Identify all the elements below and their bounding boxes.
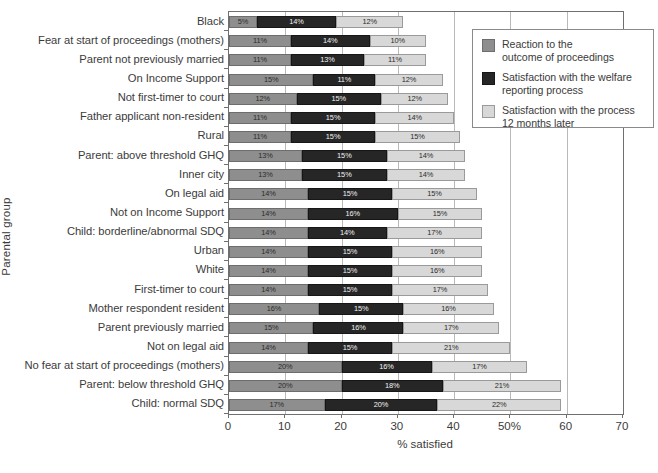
legend-item: Reaction to the outcome of proceedings: [482, 38, 614, 63]
bar-segment-label: 12%: [230, 94, 296, 104]
bar-segment: 20%: [325, 399, 438, 411]
bar-segment-label: 14%: [309, 228, 386, 238]
bar-segment: 12%: [375, 74, 443, 86]
category-label: Father applicant non-resident: [18, 110, 224, 122]
bar-segment-label: 14%: [388, 151, 465, 161]
category-label: Child: borderline/abnormal SDQ: [18, 225, 224, 237]
category-label: On Income Support: [18, 72, 224, 84]
bar-segment: 14%: [229, 342, 308, 354]
bar-segment: 12%: [336, 16, 404, 28]
bar-segment: 22%: [437, 399, 561, 411]
bar-segment-label: 16%: [343, 362, 431, 372]
bar-segment: 16%: [229, 303, 319, 315]
x-axis-tick-row: 01020304050%6070: [228, 414, 622, 434]
bar-segment: 14%: [229, 265, 308, 277]
bar-segment-label: 17%: [433, 362, 527, 372]
bar-segment-label: 11%: [365, 55, 425, 65]
bar-segment: 21%: [392, 342, 510, 354]
bar-segment: 12%: [229, 93, 297, 105]
category-label: Parent not previously married: [18, 53, 224, 65]
bar-segment-label: 20%: [230, 381, 341, 391]
bar-segment-label: 15%: [309, 189, 391, 199]
category-label: Inner city: [18, 168, 224, 180]
x-axis-tick-label: 50%: [498, 420, 521, 432]
bar-segment: 21%: [443, 380, 561, 392]
bar-segment: 14%: [387, 150, 466, 162]
category-label: Black: [18, 15, 224, 27]
bar-row: 14%15%21%: [229, 342, 510, 354]
bar-segment-label: 15%: [303, 151, 385, 161]
bar-segment: 11%: [229, 54, 291, 66]
bar-segment: 16%: [392, 246, 482, 258]
bar-segment-label: 18%: [343, 381, 442, 391]
bar-segment: 14%: [308, 227, 387, 239]
x-axis-tick-label: 70: [616, 420, 629, 432]
bar-segment: 15%: [291, 112, 375, 124]
legend-item: Satisfaction with the welfare reporting …: [482, 71, 632, 96]
bar-row: 12%15%12%: [229, 93, 448, 105]
bar-row: 14%16%15%: [229, 208, 482, 220]
bar-segment-label: 14%: [258, 17, 335, 27]
x-axis-tick-label: 0: [225, 420, 231, 432]
x-axis-tick: [284, 414, 285, 418]
bar-segment: 16%: [342, 361, 432, 373]
bar-segment: 11%: [229, 35, 291, 47]
bar-segment-label: 14%: [388, 170, 465, 180]
legend-label: Satisfaction with the welfare reporting …: [502, 71, 632, 96]
bar-segment: 17%: [392, 284, 488, 296]
bar-segment: 14%: [229, 284, 308, 296]
bar-segment: 14%: [257, 16, 336, 28]
x-axis-tick-label: 10: [278, 420, 291, 432]
bar-segment: 14%: [375, 112, 454, 124]
bar-segment-label: 15%: [309, 285, 391, 295]
bar-segment-label: 14%: [230, 266, 307, 276]
bar-segment-label: 16%: [314, 323, 402, 333]
bar-segment: 15%: [229, 322, 313, 334]
category-label: Not on legal aid: [18, 340, 224, 352]
category-label-column: BlackFear at start of proceedings (mothe…: [18, 11, 224, 413]
x-axis-tick: [622, 414, 623, 418]
bar-segment-label: 15%: [309, 343, 391, 353]
legend-item: Satisfaction with the process 12 months …: [482, 104, 635, 129]
bar-segment: 13%: [291, 54, 364, 66]
legend-swatch: [482, 105, 495, 118]
bar-segment-label: 11%: [230, 55, 290, 65]
bar-segment-label: 15%: [230, 75, 312, 85]
bar-row: 15%11%12%: [229, 74, 443, 86]
bar-segment-label: 5%: [230, 17, 256, 27]
bar-row: 14%15%16%: [229, 265, 482, 277]
bar-segment: 13%: [229, 150, 302, 162]
bar-segment: 17%: [229, 399, 325, 411]
bar-segment-label: 14%: [230, 189, 307, 199]
bar-segment-label: 20%: [326, 400, 437, 410]
bar-segment-label: 17%: [404, 323, 498, 333]
x-axis-tick-label: 40: [447, 420, 460, 432]
x-axis-tick: [228, 414, 229, 418]
bar-segment: 15%: [319, 303, 403, 315]
bar-segment-label: 12%: [376, 75, 442, 85]
bar-segment-label: 21%: [444, 381, 560, 391]
bar-row: 5%14%12%: [229, 16, 403, 28]
bar-segment-label: 13%: [230, 151, 301, 161]
bar-segment-label: 13%: [230, 170, 301, 180]
bar-segment-label: 21%: [393, 343, 509, 353]
bar-segment: 15%: [308, 246, 392, 258]
bar-segment-label: 15%: [230, 323, 312, 333]
bar-segment-label: 15%: [393, 189, 475, 199]
bar-segment: 15%: [308, 284, 392, 296]
category-label: First-timer to court: [18, 283, 224, 295]
bar-segment: 15%: [392, 188, 476, 200]
bar-segment-label: 14%: [230, 285, 307, 295]
bar-segment-label: 14%: [230, 247, 307, 257]
category-label: Rural: [18, 129, 224, 141]
bar-row: 11%13%11%: [229, 54, 426, 66]
bar-row: 13%15%14%: [229, 169, 465, 181]
bar-segment: 14%: [229, 246, 308, 258]
bar-row: 17%20%22%: [229, 399, 561, 411]
bar-segment-label: 10%: [371, 36, 425, 46]
bar-segment-label: 14%: [230, 228, 307, 238]
bar-segment: 5%: [229, 16, 257, 28]
bar-segment-label: 14%: [292, 36, 369, 46]
x-axis-tick: [509, 414, 510, 418]
bar-segment-label: 15%: [309, 247, 391, 257]
